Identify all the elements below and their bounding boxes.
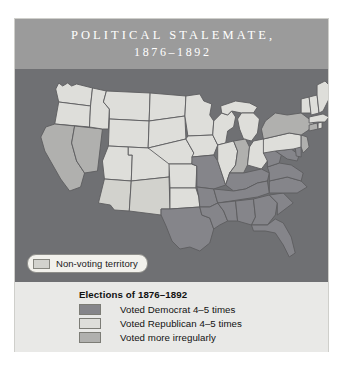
figure-title-line-1: POLITICAL STALEMATE,	[68, 27, 275, 44]
legend-label-democrat: Voted Democrat 4–5 times	[120, 304, 235, 315]
state-connecticut	[309, 123, 318, 131]
figure-title-band: POLITICAL STALEMATE, 1876–1892	[15, 19, 328, 69]
state-kansas	[169, 164, 197, 188]
state-wyoming	[108, 119, 149, 148]
legend-swatch-republican	[79, 318, 101, 329]
state-shapes	[41, 81, 328, 257]
figure-title-line-2: 1876–1892	[132, 44, 212, 61]
state-rhode-island	[318, 122, 322, 129]
us-election-map	[15, 69, 328, 282]
legend-item-irregular: Voted more irregularly	[79, 331, 328, 344]
non-voting-territory-key: Non-voting territory	[27, 254, 148, 273]
state-alabama	[236, 199, 256, 225]
legend-title: Elections of 1876–1892	[79, 289, 328, 300]
state-new-jersey	[301, 135, 309, 153]
legend-item-republican: Voted Republican 4–5 times	[79, 317, 328, 330]
state-oregon	[55, 102, 91, 127]
legend-label-republican: Voted Republican 4–5 times	[120, 318, 242, 329]
state-oklahoma	[170, 188, 200, 209]
non-voting-territory-swatch	[33, 259, 50, 269]
state-michigan-lower	[238, 113, 260, 141]
state-arizona	[98, 179, 131, 211]
state-florida	[251, 219, 295, 257]
non-voting-territory-label: Non-voting territory	[56, 258, 138, 269]
state-montana	[103, 91, 150, 121]
map-legend: Elections of 1876–1892 Voted Democrat 4–…	[15, 282, 328, 352]
legend-swatch-democrat	[79, 304, 101, 315]
map-panel: Non-voting territory	[15, 69, 328, 282]
state-utah	[102, 146, 132, 181]
legend-label-irregular: Voted more irregularly	[120, 332, 216, 343]
state-minnesota	[185, 94, 214, 136]
state-massachusetts	[309, 114, 328, 123]
state-maine	[317, 81, 328, 113]
legend-swatch-irregular	[79, 332, 101, 343]
legend-item-democrat: Voted Democrat 4–5 times	[79, 303, 328, 316]
figure-container: POLITICAL STALEMATE, 1876–1892	[14, 18, 329, 352]
state-wisconsin	[213, 111, 236, 145]
